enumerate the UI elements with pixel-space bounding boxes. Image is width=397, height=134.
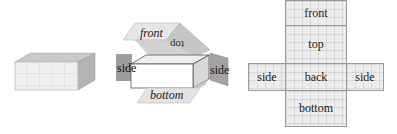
left-side-flap (116, 54, 132, 81)
net-back: back (285, 63, 347, 91)
label-side-right: side (210, 63, 229, 77)
top-flap (166, 23, 210, 56)
bottom-flap (137, 88, 200, 103)
net-bottom: bottom (285, 90, 347, 127)
solid-box-figure (0, 0, 110, 134)
label-side-left: side (117, 61, 136, 75)
core-box-front (131, 64, 193, 88)
core-box-right (193, 55, 209, 88)
label-bottom: bottom (150, 88, 184, 102)
net-side-right: side (346, 63, 384, 91)
net-top: top (285, 25, 347, 64)
box-front-face (15, 62, 78, 90)
net-side-left: side (248, 63, 286, 91)
label-top: top (169, 39, 184, 51)
front-flap (123, 23, 180, 40)
right-side-flap (210, 53, 228, 86)
label-front: front (140, 26, 164, 40)
net-front: front (285, 0, 347, 26)
core-box-top (131, 55, 209, 64)
